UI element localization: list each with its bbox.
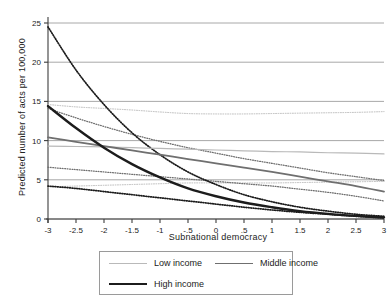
legend-swatch-middle-income-icon xyxy=(215,263,253,264)
legend-row-top: Low income Middle income xyxy=(100,252,292,273)
y-axis-tick-label: 15 xyxy=(32,97,41,106)
y-axis-tick-label: 20 xyxy=(32,58,41,67)
legend-label-high-income: High income xyxy=(154,279,204,289)
confidence-interval-line xyxy=(48,105,384,114)
confidence-interval-line xyxy=(48,186,384,218)
confidence-interval-line xyxy=(48,27,384,216)
y-axis-tick-label: 0 xyxy=(37,215,42,224)
legend-item-middle-income[interactable]: Middle income xyxy=(206,258,318,268)
y-axis-tick-label: 25 xyxy=(32,19,41,28)
legend-swatch-low-income-icon xyxy=(109,263,147,264)
legend-label-middle-income: Middle income xyxy=(260,258,318,268)
y-axis-label: Predicted number of acts per 100,000 xyxy=(17,17,27,217)
series-line xyxy=(48,137,384,191)
y-axis-tick-label: 5 xyxy=(37,176,42,185)
chart-legend: Low income Middle income High income xyxy=(99,251,293,295)
legend-item-low-income[interactable]: Low income xyxy=(100,258,202,268)
legend-swatch-high-income-icon xyxy=(109,283,147,285)
plot-area: 0510152025-3-2.5-2-1.5-1-.50.511.522.53 … xyxy=(0,0,392,250)
line-chart-svg: 0510152025-3-2.5-2-1.5-1-.50.511.522.53 xyxy=(0,0,392,250)
legend-item-high-income[interactable]: High income xyxy=(100,279,204,289)
series-line xyxy=(48,106,384,217)
legend-label-low-income: Low income xyxy=(154,258,202,268)
chart-root: 0510152025-3-2.5-2-1.5-1-.50.511.522.53 … xyxy=(0,0,392,304)
y-axis-tick-label: 10 xyxy=(32,137,41,146)
x-axis-label: Subnational democracy xyxy=(48,232,388,242)
legend-row-bottom: High income xyxy=(100,273,292,294)
